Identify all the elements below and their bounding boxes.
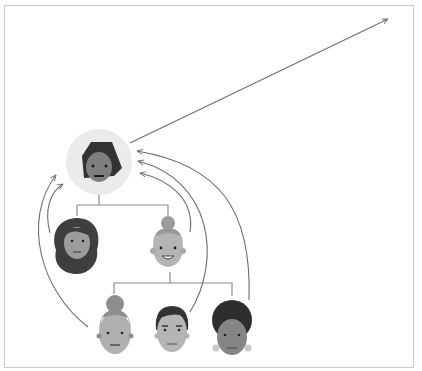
avatar-root (66, 129, 132, 195)
arrow-outward (130, 19, 388, 143)
avatar-child-right (150, 216, 186, 267)
avatar-grandchild-3 (212, 300, 252, 355)
avatar-grandchild-2 (155, 306, 190, 352)
arrow-grandchild3-to-root (137, 151, 249, 300)
avatar-child-left (54, 218, 98, 274)
hierarchy-diagram (0, 0, 422, 371)
avatar-grandchild-1 (97, 295, 134, 354)
